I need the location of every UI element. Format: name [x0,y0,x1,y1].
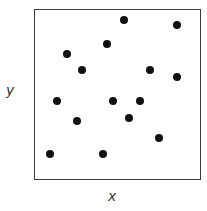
data-point [155,134,163,142]
data-point [63,50,71,58]
data-point [53,97,61,105]
data-point [109,97,117,105]
data-point [136,97,144,105]
y-axis-label: y [6,82,14,98]
data-point [46,150,54,158]
data-point [99,150,107,158]
data-point [173,73,181,81]
data-point [78,66,86,74]
data-point [173,21,181,29]
data-point [73,117,81,125]
data-point [125,114,133,122]
data-point [146,66,154,74]
data-point [103,40,111,48]
data-point [120,16,128,24]
plot-area [34,9,201,180]
x-axis-label: x [108,188,116,204]
